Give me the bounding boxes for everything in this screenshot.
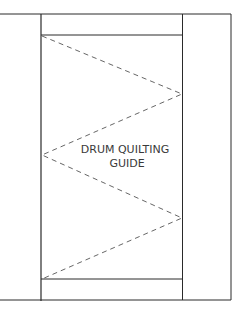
label-line1: DRUM QUILTING [81,143,169,156]
label-line2: GUIDE [109,157,144,170]
drum-quilting-diagram: DRUM QUILTING GUIDE [0,0,238,309]
